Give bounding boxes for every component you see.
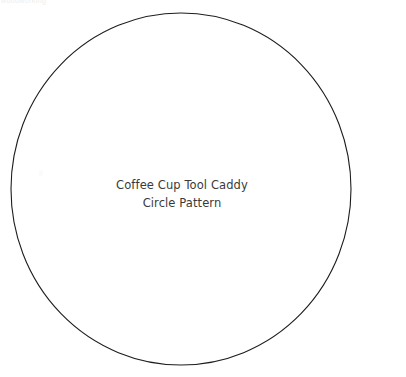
pattern-caption: Coffee Cup Tool Caddy Circle Pattern [0, 176, 364, 212]
pattern-page: woodworking Coffee Cup Tool Caddy Circle… [0, 0, 406, 377]
caption-line-subtitle: Circle Pattern [0, 194, 364, 212]
caption-line-title: Coffee Cup Tool Caddy [0, 176, 364, 194]
